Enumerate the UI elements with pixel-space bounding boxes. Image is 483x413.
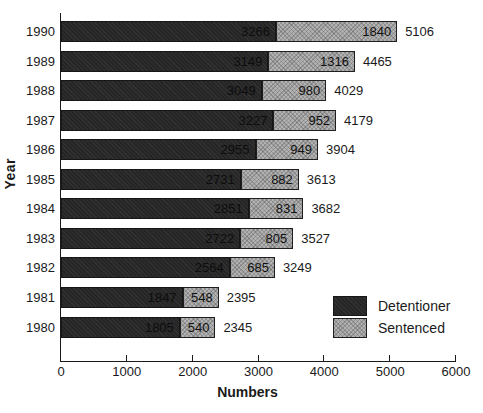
year-tick-label: 1990 [26, 21, 55, 42]
sentenced-bar-segment: 548 [183, 287, 219, 308]
sentenced-value-label: 949 [290, 142, 317, 157]
sentenced-bar-segment: 831 [249, 198, 304, 219]
detentioner-value-label: 3227 [239, 113, 273, 128]
bar-row-1980: 198018055402345 [61, 317, 252, 338]
x-tick-mark [192, 355, 193, 361]
detentioner-value-label: 2955 [221, 142, 255, 157]
year-tick-label: 1988 [26, 80, 55, 101]
sentenced-value-label: 685 [247, 260, 274, 275]
detentioner-bar-segment: 3227 [61, 110, 273, 131]
detentioner-bar-segment: 1805 [61, 317, 180, 338]
y-axis-title: Year [2, 158, 18, 190]
legend-swatch-detentioner [333, 296, 367, 316]
detentioner-bar-segment: 3266 [61, 21, 276, 42]
x-tick-label: 0 [57, 364, 64, 379]
detentioner-bar-segment: 3049 [61, 80, 262, 101]
year-tick-label: 1987 [26, 110, 55, 131]
plot-area: 1990326618405106198931491316446519883049… [60, 13, 456, 362]
sentenced-bar-segment: 540 [180, 317, 216, 338]
bar-row-1984: 198428518313682 [61, 198, 340, 219]
total-value-label: 3249 [283, 257, 312, 278]
sentenced-bar-segment: 685 [230, 257, 275, 278]
sentenced-bar-segment: 952 [273, 110, 336, 131]
year-tick-label: 1981 [26, 287, 55, 308]
sentenced-value-label: 882 [271, 172, 298, 187]
legend-item-detentioner: Detentioner [333, 295, 450, 317]
bar-row-1986: 198629559493904 [61, 139, 355, 160]
detentioner-bar-segment: 1847 [61, 287, 183, 308]
detentioner-bar-segment: 2564 [61, 257, 230, 278]
bar-row-1987: 198732279524179 [61, 110, 373, 131]
detentioner-bar-segment: 3149 [61, 51, 268, 72]
x-tick-label: 5000 [376, 364, 405, 379]
sentenced-bar-segment: 949 [256, 139, 318, 160]
sentenced-value-label: 1316 [320, 54, 354, 69]
bar-row-1981: 198118475482395 [61, 287, 256, 308]
x-tick-mark [258, 355, 259, 361]
year-tick-label: 1985 [26, 169, 55, 190]
sentenced-bar-segment: 980 [262, 80, 327, 101]
detentioner-value-label: 2564 [195, 260, 229, 275]
total-value-label: 3682 [311, 198, 340, 219]
year-tick-label: 1980 [26, 317, 55, 338]
detentioner-bar-segment: 2731 [61, 169, 241, 190]
bar-row-1985: 198527318823613 [61, 169, 336, 190]
x-tick-label: 6000 [442, 364, 471, 379]
legend-label-detentioner: Detentioner [378, 298, 450, 314]
sentenced-bar-segment: 882 [241, 169, 299, 190]
detentioner-value-label: 1805 [145, 320, 179, 335]
detentioner-value-label: 3266 [241, 24, 275, 39]
detentioner-bar-segment: 2722 [61, 228, 240, 249]
sentenced-value-label: 548 [191, 290, 218, 305]
x-tick-label: 2000 [178, 364, 207, 379]
sentenced-value-label: 805 [265, 231, 292, 246]
year-tick-label: 1986 [26, 139, 55, 160]
sentenced-bar-segment: 1840 [276, 21, 397, 42]
bar-row-1983: 198327228053527 [61, 228, 330, 249]
sentenced-bar-segment: 805 [240, 228, 293, 249]
bar-row-1989: 1989314913164465 [61, 51, 392, 72]
total-value-label: 2395 [227, 287, 256, 308]
year-tick-label: 1989 [26, 51, 55, 72]
sentenced-value-label: 831 [276, 201, 303, 216]
detentioner-value-label: 2731 [206, 172, 240, 187]
x-tick-mark [323, 355, 324, 361]
x-tick-mark [455, 355, 456, 361]
cropped-edge-artifact: : [0, 24, 1, 40]
legend-swatch-sentenced [333, 318, 367, 338]
total-value-label: 3613 [307, 169, 336, 190]
total-value-label: 3527 [301, 228, 330, 249]
detentioner-value-label: 3049 [227, 83, 261, 98]
legend-label-sentenced: Sentenced [378, 320, 445, 336]
detentioner-bar-segment: 2955 [61, 139, 256, 160]
bar-row-1982: 198225646853249 [61, 257, 312, 278]
total-value-label: 3904 [326, 139, 355, 160]
x-axis-title: Numbers [50, 384, 445, 400]
total-value-label: 5106 [405, 21, 434, 42]
detentioner-value-label: 2851 [214, 201, 248, 216]
total-value-label: 2345 [223, 317, 252, 338]
total-value-label: 4179 [344, 110, 373, 131]
sentenced-value-label: 540 [188, 320, 215, 335]
bar-row-1988: 198830499804029 [61, 80, 363, 101]
detentioner-value-label: 3149 [233, 54, 267, 69]
x-tick-label: 3000 [244, 364, 273, 379]
x-tick-mark [389, 355, 390, 361]
x-tick-mark [126, 355, 127, 361]
year-tick-label: 1982 [26, 257, 55, 278]
detentioner-value-label: 2722 [205, 231, 239, 246]
year-tick-label: 1983 [26, 228, 55, 249]
total-value-label: 4029 [334, 80, 363, 101]
sentenced-value-label: 1840 [362, 24, 396, 39]
bar-row-1990: 1990326618405106 [61, 21, 434, 42]
total-value-label: 4465 [363, 51, 392, 72]
sentenced-bar-segment: 1316 [268, 51, 355, 72]
legend-item-sentenced: Sentenced [333, 317, 450, 339]
x-tick-label: 4000 [310, 364, 339, 379]
detentioner-bar-segment: 2851 [61, 198, 249, 219]
year-tick-label: 1984 [26, 198, 55, 219]
stacked-bar-chart-figure: : Year 199032661840510619893149131644651… [0, 0, 483, 413]
sentenced-value-label: 980 [299, 83, 326, 98]
sentenced-value-label: 952 [308, 113, 335, 128]
detentioner-value-label: 1847 [148, 290, 182, 305]
